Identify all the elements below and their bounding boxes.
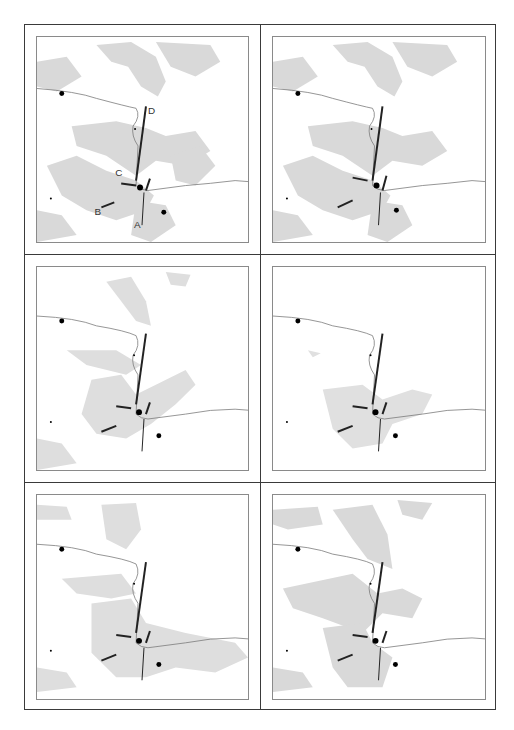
label-b: B (94, 206, 101, 217)
map-canvas (273, 37, 485, 242)
map-frame (272, 494, 486, 700)
map-panel-5 (25, 483, 260, 711)
map-panel-2 (261, 25, 497, 254)
map-frame (36, 266, 249, 471)
map-canvas (37, 267, 248, 470)
map-frame (272, 36, 486, 243)
label-c: C (115, 167, 122, 178)
vegetation-areas (37, 42, 220, 242)
label-d: D (148, 105, 155, 116)
map-panel-4 (261, 255, 497, 482)
map-panel-3 (25, 255, 260, 482)
map-canvas (273, 495, 485, 699)
map-frame: D C B A (36, 36, 249, 243)
map-canvas (273, 267, 485, 470)
map-panel-1: D C B A (25, 25, 260, 254)
map-canvas (37, 495, 248, 699)
map-panel-6 (261, 483, 497, 711)
label-a: A (134, 219, 141, 230)
map-canvas: D C B A (37, 37, 248, 242)
figure-grid: D C B A (24, 24, 496, 710)
map-frame (272, 266, 486, 471)
map-frame (36, 494, 249, 700)
